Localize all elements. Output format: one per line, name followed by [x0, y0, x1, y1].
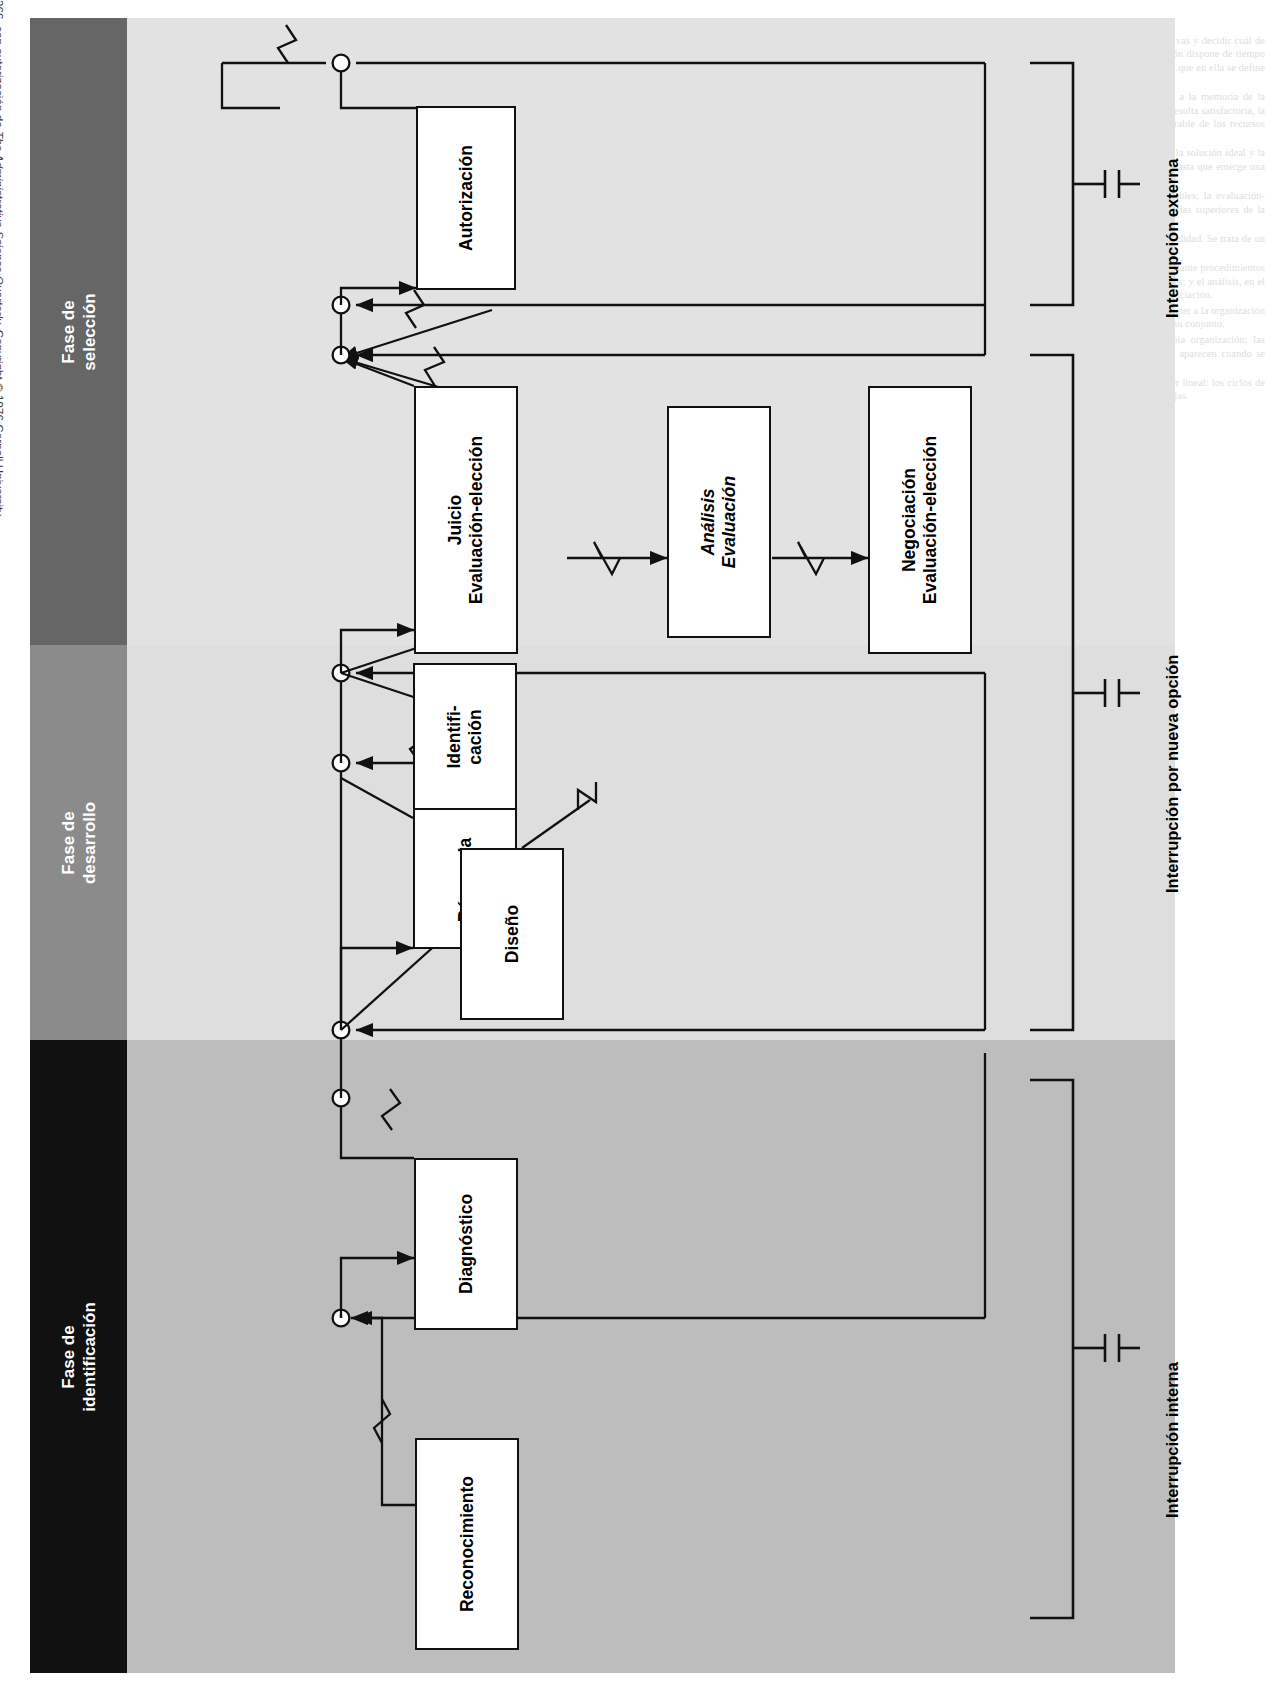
node-label: Juicio Evaluación-elección [445, 436, 487, 604]
node-diseno[interactable]: Diseño [460, 848, 564, 1020]
node-reconocimiento[interactable]: Reconocimiento [415, 1438, 519, 1650]
node-label-identificacion: Identifi- cación [444, 705, 486, 768]
decision-process-diagram: Fase de selección Fase de desarrollo Fas… [30, 18, 1175, 1673]
node-juicio[interactable]: Juicio Evaluación-elección [414, 386, 518, 654]
node-label: Diseño [502, 905, 523, 963]
node-autorizacion[interactable]: Autorización [416, 106, 516, 290]
node-analisis[interactable]: Análisis Evaluación [667, 406, 771, 638]
source-credit: 266, con autorización de The Administrat… [0, 0, 10, 1691]
node-label: Autorización [456, 145, 477, 251]
interruption-label-nueva-opcion: Interrupción por nueva opción [1163, 655, 1182, 893]
credit-before: 266, con autorización de [0, 0, 5, 131]
node-negociacion[interactable]: Negociación Evaluación-elección [868, 386, 972, 654]
credit-after: Copyright © 1976 Cornell University. [0, 326, 5, 518]
node-label: Análisis Evaluación [698, 476, 740, 568]
credit-journal: The Administrative Science Quarterly. [0, 131, 5, 326]
interruption-label-interna: Interrupción interna [1163, 1362, 1182, 1518]
interruption-label-externa: Interrupción externa [1163, 158, 1182, 318]
node-diagnostico[interactable]: Diagnóstico [414, 1158, 518, 1330]
node-label: Diagnóstico [456, 1194, 477, 1294]
figure-page: 266, con autorización de The Administrat… [0, 0, 1279, 1691]
connector-layer [30, 18, 1175, 1673]
node-label: Reconocimiento [457, 1476, 478, 1612]
node-label: Negociación Evaluación-elección [899, 436, 941, 604]
box-divider [415, 808, 515, 810]
